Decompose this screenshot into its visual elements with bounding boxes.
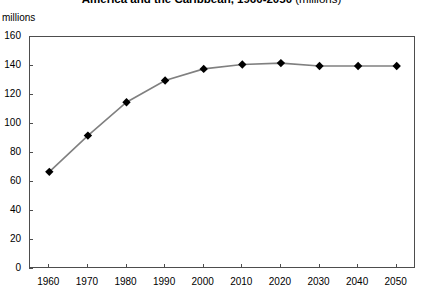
chart-title: America and the Caribbean, 1960-2050 (mi… bbox=[0, 0, 423, 6]
y-tick-label: 100 bbox=[0, 116, 21, 129]
data-point-marker bbox=[315, 62, 323, 70]
series-markers bbox=[45, 59, 401, 176]
data-point-marker bbox=[161, 76, 169, 84]
y-tick-label: 120 bbox=[0, 87, 21, 100]
y-tick-mark bbox=[29, 123, 33, 124]
x-tick-mark bbox=[357, 264, 358, 268]
x-tick-mark bbox=[280, 264, 281, 268]
y-tick-mark bbox=[29, 65, 33, 66]
x-tick-mark bbox=[48, 264, 49, 268]
x-tick-mark bbox=[319, 264, 320, 268]
series-plot bbox=[30, 37, 416, 269]
y-tick-mark bbox=[29, 152, 33, 153]
series-line bbox=[49, 63, 396, 172]
y-tick-label: 140 bbox=[0, 58, 21, 71]
y-tick-label: 60 bbox=[0, 174, 21, 187]
y-tick-mark bbox=[29, 268, 33, 269]
x-tick-mark bbox=[396, 264, 397, 268]
y-tick-mark bbox=[29, 239, 33, 240]
data-point-marker bbox=[354, 62, 362, 70]
data-point-marker bbox=[393, 62, 401, 70]
x-tick-mark bbox=[164, 264, 165, 268]
x-tick-mark bbox=[126, 264, 127, 268]
data-point-marker bbox=[238, 60, 246, 68]
y-tick-mark bbox=[29, 94, 33, 95]
chart-container: America and the Caribbean, 1960-2050 (mi… bbox=[0, 0, 423, 291]
y-tick-label: 160 bbox=[0, 29, 21, 42]
x-tick-mark bbox=[87, 264, 88, 268]
chart-title-text: America and the Caribbean, 1960-2050 bbox=[82, 0, 292, 5]
y-tick-mark bbox=[29, 210, 33, 211]
x-tick-mark bbox=[203, 264, 204, 268]
y-tick-mark bbox=[29, 181, 33, 182]
data-point-marker bbox=[277, 59, 285, 67]
y-tick-label: 80 bbox=[0, 145, 21, 158]
x-tick-mark bbox=[241, 264, 242, 268]
data-point-marker bbox=[200, 65, 208, 73]
y-tick-mark bbox=[29, 36, 33, 37]
y-axis-label: millions bbox=[2, 12, 35, 24]
y-tick-label: 20 bbox=[0, 232, 21, 245]
plot-area bbox=[29, 36, 415, 268]
x-tick-label: 2050 bbox=[366, 275, 423, 288]
y-tick-label: 40 bbox=[0, 203, 21, 216]
y-tick-label: 0 bbox=[0, 261, 21, 274]
chart-title-unit: (millions) bbox=[295, 0, 341, 5]
